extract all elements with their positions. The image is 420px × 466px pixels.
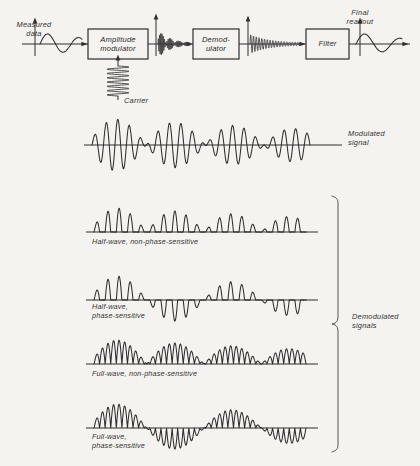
diagram-artwork (0, 0, 420, 466)
demodulator-label: Demod- ulator (193, 35, 239, 53)
full-wave-non-phase-sensitive-waveform (94, 340, 306, 364)
demodulated-signals-label: Demodulated signals (352, 312, 399, 330)
half-wave-non-phase-sensitive-waveform (94, 208, 306, 232)
final-readout-label: Final readout (332, 8, 388, 26)
half-wave-non-phase-sensitive-label: Half-wave, non-phase-sensitive (92, 238, 198, 247)
demodulated-signals-brace (332, 196, 338, 452)
axis-demod-arrow (246, 16, 251, 22)
carrier-arrow (116, 55, 121, 61)
arrow-into-modulator (81, 42, 87, 47)
full-wave-phase-sensitive-label: Full-wave, phase-sensitive (92, 433, 145, 451)
figure-canvas: Measured data Amplitude modulator Demod-… (0, 0, 420, 466)
full-wave-non-phase-sensitive-label: Full-wave, non-phase-sensitive (92, 370, 197, 379)
carrier-waveform (107, 66, 129, 96)
axis-mod-arrow (154, 14, 159, 20)
filter-label: Filter (306, 39, 349, 48)
measured-data-label: Measured data (6, 20, 62, 38)
final-readout-waveform (356, 34, 402, 52)
carrier-label: Carrier (124, 96, 148, 105)
modulated-signal-label: Modulated signal (348, 129, 385, 147)
amplitude-modulator-label: Amplitude modulator (88, 35, 148, 53)
arrow-final-output (402, 42, 408, 47)
modulated-burst-waveform (158, 33, 190, 54)
half-wave-phase-sensitive-label: Half-wave, phase-sensitive (92, 303, 145, 321)
